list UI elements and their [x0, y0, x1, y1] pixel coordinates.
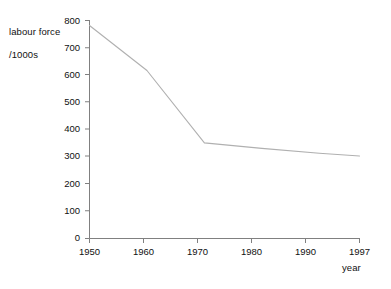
y-axis-ticks [85, 21, 90, 239]
x-tick-label-1970: 1970 [178, 246, 218, 257]
y-tick-label-400: 400 [50, 123, 80, 134]
y-tick-label-700: 700 [50, 42, 80, 53]
y-tick-label-100: 100 [50, 205, 80, 216]
data-series-line [90, 25, 360, 156]
y-tick-label-500: 500 [50, 96, 80, 107]
y-axis-title-line2: /1000s [9, 49, 38, 60]
x-axis-title: year [342, 262, 386, 274]
y-axis-title-line1: labour force [9, 26, 60, 37]
x-tick-label-1960: 1960 [124, 246, 164, 257]
y-tick-label-0: 0 [50, 232, 80, 243]
y-tick-label-300: 300 [50, 150, 80, 161]
y-tick-label-600: 600 [50, 69, 80, 80]
x-tick-label-1980: 1980 [232, 246, 272, 257]
x-tick-label-1997: 1997 [340, 246, 380, 257]
y-tick-label-800: 800 [50, 15, 80, 26]
x-tick-label-1950: 1950 [70, 246, 110, 257]
line-chart: labour force /1000s year 800 700 600 500… [0, 0, 391, 289]
x-tick-label-1990: 1990 [286, 246, 326, 257]
x-axis-ticks [90, 239, 360, 244]
y-tick-label-200: 200 [50, 178, 80, 189]
